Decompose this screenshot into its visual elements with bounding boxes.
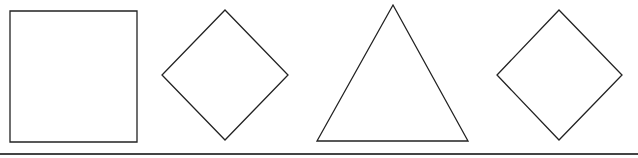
square-shape [10,11,137,142]
diamond-shape-2 [497,10,622,140]
shapes-figure [0,0,638,158]
diamond-shape-1 [162,10,288,140]
triangle-shape [317,5,468,141]
